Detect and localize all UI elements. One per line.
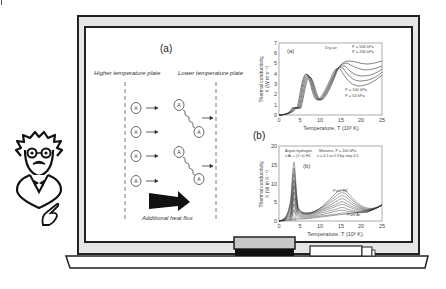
svg-text:10: 10 xyxy=(317,223,323,229)
svg-text:Temperature, T (10³ K): Temperature, T (10³ K) xyxy=(307,231,363,237)
svg-text:Pure H2: Pure H2 xyxy=(333,188,348,193)
svg-text:7: 7 xyxy=(274,40,277,46)
svg-text:K (W m K⁻¹): K (W m K⁻¹) xyxy=(264,170,270,198)
svg-text:1: 1 xyxy=(274,102,277,108)
svg-text:0: 0 xyxy=(277,117,280,123)
svg-text:6: 6 xyxy=(274,50,277,56)
svg-text:Argon-hydrogen: Argon-hydrogen xyxy=(285,149,312,153)
svg-text:15: 15 xyxy=(338,117,344,123)
chart-a-dry-air: 0123 4567 0510 152025 Temperature, T (10… xyxy=(255,37,390,132)
svg-text:4: 4 xyxy=(274,71,277,77)
svg-text:5: 5 xyxy=(274,60,277,66)
svg-text:20: 20 xyxy=(358,117,364,123)
svg-text:Mixtures, P = 100 kPa: Mixtures, P = 100 kPa xyxy=(319,149,357,153)
svg-text:0: 0 xyxy=(277,223,280,229)
svg-text:10: 10 xyxy=(317,117,323,123)
svg-text:x Ar + (1−x) H2: x Ar + (1−x) H2 xyxy=(285,154,311,158)
heat-flux-arrow-icon xyxy=(149,191,190,211)
svg-text:20: 20 xyxy=(358,223,364,229)
svg-text:15: 15 xyxy=(271,162,277,168)
atom-row xyxy=(131,103,141,187)
svg-text:Temperature, T (10³ K): Temperature, T (10³ K) xyxy=(303,125,359,131)
svg-text:5: 5 xyxy=(274,199,277,205)
svg-text:Dry air: Dry air xyxy=(325,45,337,50)
svg-text:5: 5 xyxy=(298,117,301,123)
svg-text:15: 15 xyxy=(338,223,344,229)
svg-text:x = 0.1 to 0.9 by step 0.1: x = 0.1 to 0.9 by step 0.1 xyxy=(317,154,359,158)
additional-heat-flux-label: Additional heat flux xyxy=(142,215,193,221)
chart-b-argon-hydrogen: 0510 1520 0510 152025 Temperature, T (10… xyxy=(255,142,390,240)
svg-text:3: 3 xyxy=(274,81,277,87)
svg-text:K (W m s⁻¹): K (W m s⁻¹) xyxy=(264,65,270,92)
svg-text:(b): (b) xyxy=(303,163,310,169)
svg-text:5: 5 xyxy=(298,223,301,229)
svg-text:P = 200 kPa: P = 200 kPa xyxy=(352,49,375,54)
svg-text:2: 2 xyxy=(274,91,277,97)
svg-text:(a): (a) xyxy=(287,48,294,54)
svg-text:10: 10 xyxy=(271,181,277,187)
svg-text:20: 20 xyxy=(271,143,277,149)
svg-text:25: 25 xyxy=(379,223,385,229)
svg-text:P = 100 kPa: P = 100 kPa xyxy=(345,87,368,92)
svg-text:P = 50 kPa: P = 50 kPa xyxy=(345,93,365,98)
svg-text:25: 25 xyxy=(379,117,385,123)
